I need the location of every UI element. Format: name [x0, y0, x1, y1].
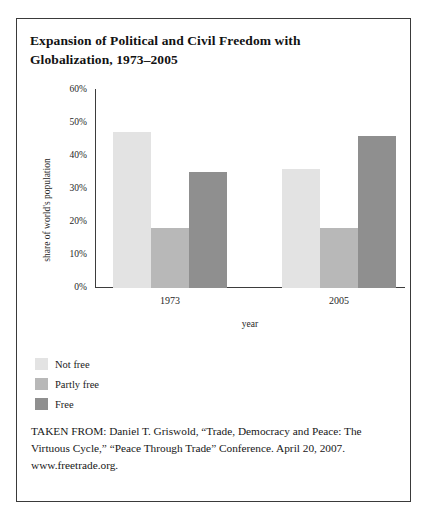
figure-container: Expansion of Political and Civil Freedom… — [16, 18, 411, 502]
y-tick-30: 30% — [70, 183, 87, 193]
y-axis-tick-labels: 60% 50% 40% 30% 20% 10% 0% — [41, 87, 93, 317]
figure-title: Expansion of Political and Civil Freedom… — [30, 31, 380, 69]
bar-2005-free — [358, 136, 396, 289]
legend-swatch-not-free — [35, 358, 48, 370]
chart-plot-region: share of world's population 60% 50% 40% … — [17, 87, 412, 347]
y-tick-40: 40% — [70, 150, 87, 160]
bar-1973-not-free — [113, 132, 151, 288]
source-caption: TAKEN FROM: Daniel T. Griswold, “Trade, … — [31, 423, 399, 474]
bar-group-2005 — [282, 89, 396, 288]
legend-swatch-partly-free — [35, 378, 48, 390]
y-tick-10: 10% — [70, 249, 87, 259]
x-tick-label-1973: 1973 — [113, 295, 227, 306]
x-axis-title: year — [95, 319, 405, 329]
legend-item-not-free: Not free — [35, 355, 255, 373]
legend-item-free: Free — [35, 395, 255, 413]
legend-item-partly-free: Partly free — [35, 375, 255, 393]
bar-2005-not-free — [282, 169, 320, 288]
x-tick-label-2005: 2005 — [282, 295, 396, 306]
bar-group-1973 — [113, 89, 227, 288]
y-tick-60: 60% — [70, 84, 87, 94]
y-tick-50: 50% — [70, 117, 87, 127]
bar-2005-partly-free — [320, 228, 358, 288]
chart-legend: Not free Partly free Free — [35, 355, 255, 415]
y-tick-0: 0% — [74, 282, 87, 292]
legend-label-not-free: Not free — [55, 359, 90, 370]
legend-swatch-free — [35, 398, 48, 410]
legend-label-free: Free — [55, 399, 74, 410]
bar-1973-partly-free — [151, 228, 189, 288]
bar-1973-free — [189, 172, 227, 288]
y-tick-20: 20% — [70, 216, 87, 226]
bars-plot-surface — [96, 89, 405, 288]
legend-label-partly-free: Partly free — [55, 379, 99, 390]
